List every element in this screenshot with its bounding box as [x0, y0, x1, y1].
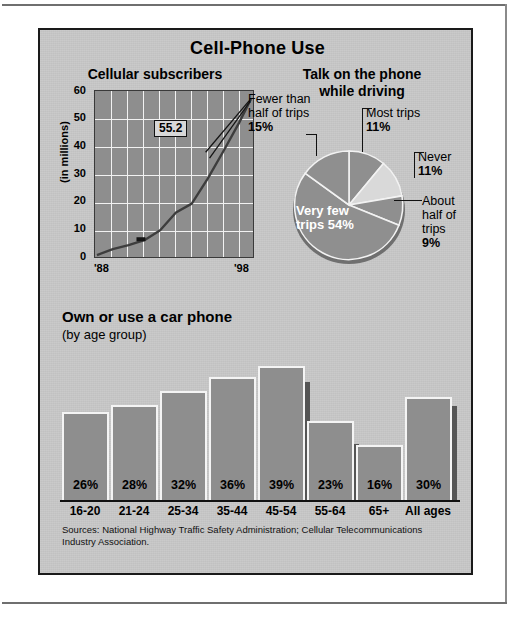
- age-label: 65+: [353, 504, 405, 518]
- age-label: 16-20: [59, 504, 111, 518]
- pie-leader-never-tick: [414, 152, 424, 153]
- age-label: All ages: [402, 504, 454, 518]
- pie-label-veryfew-line1: Very few: [296, 203, 349, 218]
- line-chart-title: Cellular subscribers: [48, 66, 262, 82]
- pie-label-about-line1: About: [422, 194, 455, 208]
- bar-value: 16%: [356, 478, 403, 492]
- pie-value-about: 9%: [422, 236, 440, 250]
- age-label: 25-34: [157, 504, 209, 518]
- age-label: 35-44: [206, 504, 258, 518]
- pie-title-line1: Talk on the phone: [303, 66, 422, 82]
- bar-chart-baseline: [60, 500, 460, 502]
- line-series: [95, 91, 253, 257]
- x-tick-start: '88: [94, 262, 109, 274]
- bar-value: 28%: [111, 478, 158, 492]
- pie-label-very-few: Very few trips 54%: [296, 204, 392, 232]
- pie-value-most: 11%: [366, 120, 390, 134]
- pie-label-fewer-than-half: Fewer than half of trips 15%: [248, 92, 340, 134]
- y-tick-20: 20: [52, 194, 86, 206]
- pie-leader-fewer-tick: [306, 134, 317, 135]
- bar-value: 23%: [307, 478, 354, 492]
- pie-leader-most-tick: [362, 108, 372, 109]
- bar-chart-subtitle: (by age group): [62, 327, 147, 342]
- page-bottom-rule: [2, 602, 507, 604]
- page-top-rule: [2, 4, 507, 6]
- pie-leader-fewer: [316, 134, 317, 156]
- bar-value: 30%: [405, 478, 452, 492]
- line-chart: Cellular subscribers (in millions) 60 50…: [48, 66, 274, 302]
- pie-label-veryfew-line2: trips 54%: [296, 217, 354, 232]
- y-tick-0: 0: [52, 250, 86, 262]
- pie-chart: Talk on the phone while driving: [262, 66, 472, 304]
- bar-value: 26%: [62, 478, 109, 492]
- sources-note: Sources: National Highway Traffic Safety…: [62, 524, 442, 548]
- pie-label-fewer-line2: half of trips: [248, 106, 309, 120]
- y-tick-30: 30: [52, 167, 86, 179]
- bar-value: 36%: [209, 478, 256, 492]
- pie-leader-most: [362, 108, 363, 152]
- pie-leader-about-tick: [394, 200, 422, 201]
- pie-label-fewer-line1: Fewer than: [248, 92, 311, 106]
- pie-label-most-line1: Most trips: [366, 106, 420, 120]
- x-tick-end: '98: [234, 262, 249, 274]
- bar-shadow: [452, 406, 457, 500]
- infographic-panel: Cell-Phone Use Cellular subscribers (in …: [38, 28, 473, 575]
- pie-leader-never: [414, 152, 415, 178]
- pie-value-fewer: 15%: [248, 120, 273, 134]
- y-tick-50: 50: [52, 111, 86, 123]
- line-chart-plot-area: [94, 90, 254, 258]
- page-right-rule: [505, 4, 507, 604]
- pie-label-never: Never 11%: [418, 150, 478, 178]
- page-title: Cell-Phone Use: [40, 38, 475, 59]
- bar-value: 32%: [160, 478, 207, 492]
- bar-value: 39%: [258, 478, 305, 492]
- line-chart-callout: 55.2: [154, 120, 187, 137]
- y-tick-40: 40: [52, 139, 86, 151]
- bar-chart: Own or use a car phone (by age group) 26…: [48, 308, 468, 540]
- age-label: 21-24: [108, 504, 160, 518]
- infographic-page: Cell-Phone Use Cellular subscribers (in …: [0, 0, 511, 633]
- pie-label-about-half: About half of trips 9%: [422, 194, 480, 250]
- age-label: 55-64: [304, 504, 356, 518]
- y-tick-60: 60: [52, 84, 86, 96]
- pie-value-never: 11%: [418, 164, 442, 178]
- pie-label-about-line3: trips: [422, 222, 446, 236]
- y-tick-10: 10: [52, 222, 86, 234]
- pie-label-most-trips: Most trips 11%: [366, 106, 452, 134]
- pie-label-about-line2: half of: [422, 208, 456, 222]
- age-label: 45-54: [255, 504, 307, 518]
- bar-chart-title: Own or use a car phone: [62, 308, 232, 325]
- bar-series: 26% 28% 32% 36% 39%: [62, 348, 458, 500]
